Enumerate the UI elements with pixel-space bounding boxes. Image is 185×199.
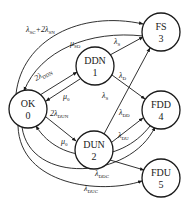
node-fdu-name: FDU	[151, 167, 172, 178]
label-ddn-fdd: λD	[118, 71, 126, 81]
node-fs-name: FS	[155, 21, 166, 32]
label-ok-fdu-duc: λDUC	[83, 184, 99, 194]
label-ok-ddn: 2λDDN	[33, 66, 54, 84]
node-ddn-name: DDN	[84, 55, 106, 66]
node-fdu: FDU 5	[142, 159, 180, 197]
node-fs: FS 3	[142, 13, 180, 51]
node-dun-number: 2	[92, 151, 97, 162]
label-ok-fs: λSC+2λSN	[25, 25, 55, 35]
node-dun-name: DUN	[83, 139, 105, 150]
label-ok-fdd-ddc: λDDC	[94, 169, 110, 179]
label-ddn-ok: μ0	[62, 92, 70, 102]
node-ddn-number: 1	[93, 67, 98, 78]
state-diagram: λSC+2λSN μSO λS 2λDDN μ0 λD λS 2λDUN λDD…	[0, 0, 185, 199]
node-fdd-name: FDD	[151, 99, 171, 110]
label-dun-fdd: λDD	[118, 108, 130, 118]
edge-ddn-to-fdd	[112, 75, 145, 99]
label-fdd-ok: μ0	[60, 137, 68, 147]
label-fs-ok: μSO	[69, 39, 81, 49]
node-fdd-number: 4	[159, 111, 164, 122]
node-fdd: FDD 4	[142, 91, 180, 129]
node-dun: DUN 2	[75, 131, 113, 169]
label-ddn-fs: λS	[113, 37, 120, 47]
node-ok-number: 0	[26, 110, 31, 121]
node-ddn: DDN 1	[76, 47, 114, 85]
node-fdu-number: 5	[159, 179, 164, 190]
label-dun-fdu: λDU	[117, 131, 129, 141]
node-fs-number: 3	[159, 33, 164, 44]
edge-dun-to-fdu	[110, 160, 144, 170]
node-ok: OK 0	[9, 90, 47, 128]
label-dun-fs: λS	[101, 91, 108, 101]
label-ok-dun: 2λDUN	[50, 109, 69, 119]
node-ok-name: OK	[21, 98, 36, 109]
